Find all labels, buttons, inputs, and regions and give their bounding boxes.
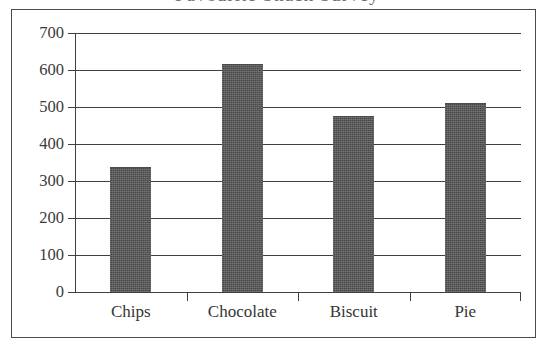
x-tick-boundary-end [520,292,521,301]
y-axis-label-200: 200 [39,210,64,227]
y-axis-label-300: 300 [39,173,64,190]
x-tick-boundary-3 [410,292,411,301]
bar-pie [445,103,486,292]
y-axis-label-600: 600 [39,62,64,79]
clipped-title: Favourite Snack Survey [0,0,550,5]
y-axis-label-100: 100 [39,247,64,264]
bar-chocolate [222,64,263,292]
y-axis-line [75,33,76,293]
x-axis-label-chocolate: Chocolate [208,303,277,320]
gridline-600 [75,70,521,71]
y-axis-label-700: 700 [39,25,64,42]
x-tick-boundary-1 [187,292,188,301]
bar-chart-figure: Favourite Snack Survey 01002003004005006… [0,0,550,350]
y-axis-label-0: 0 [56,284,64,301]
y-axis-label-500: 500 [39,99,64,116]
gridline-700 [75,33,521,34]
bar-chips [110,167,151,292]
x-axis-label-pie: Pie [454,303,476,320]
bar-biscuit [333,116,374,292]
clipped-title-text: Favourite Snack Survey [175,0,380,5]
x-axis-label-biscuit: Biscuit [330,303,378,320]
y-axis-label-400: 400 [39,136,64,153]
plot-area: 0100200300400500600700 [75,33,521,292]
x-axis-ticks [75,292,521,301]
x-axis-label-chips: Chips [111,303,151,320]
x-tick-boundary-2 [298,292,299,301]
